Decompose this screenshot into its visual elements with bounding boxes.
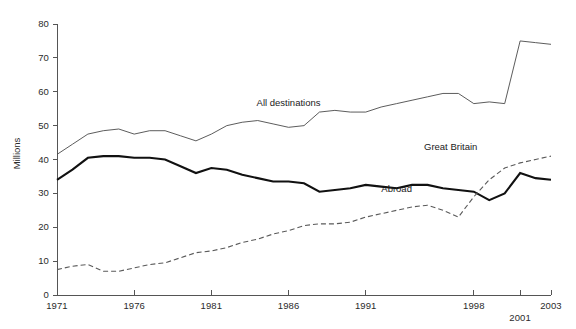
y-tick-label: 80 bbox=[27, 18, 49, 29]
x-tick-label: 1986 bbox=[267, 300, 311, 311]
y-tick-label: 50 bbox=[27, 120, 49, 131]
x-tick-label: 2001 bbox=[498, 312, 542, 323]
y-tick-label: 30 bbox=[27, 187, 49, 198]
axes-group bbox=[53, 24, 551, 296]
line-chart-plot bbox=[0, 0, 576, 329]
chart-container: Millions 01020304050607080 1971197619811… bbox=[0, 0, 576, 329]
x-tick-label: 1976 bbox=[112, 300, 156, 311]
y-tick-label: 0 bbox=[27, 289, 49, 300]
x-tick-label: 2003 bbox=[529, 300, 573, 311]
x-tick-label: 1991 bbox=[344, 300, 388, 311]
y-axis-title: Millions bbox=[11, 124, 22, 184]
y-tick-label: 10 bbox=[27, 255, 49, 266]
y-tick-label: 20 bbox=[27, 221, 49, 232]
y-tick-label: 60 bbox=[27, 86, 49, 97]
x-tick-label: 1971 bbox=[35, 300, 79, 311]
series-annotation-abroad: Abroad bbox=[381, 183, 412, 194]
series-group bbox=[57, 41, 551, 271]
x-tick-label: 1998 bbox=[452, 300, 496, 311]
series-annotation-great-britain: Great Britain bbox=[424, 141, 477, 152]
y-tick-label: 40 bbox=[27, 154, 49, 165]
series-line-abroad bbox=[57, 156, 551, 271]
x-tick-label: 1981 bbox=[189, 300, 233, 311]
y-tick-label: 70 bbox=[27, 52, 49, 63]
series-annotation-all-destinations: All destinations bbox=[257, 97, 321, 108]
